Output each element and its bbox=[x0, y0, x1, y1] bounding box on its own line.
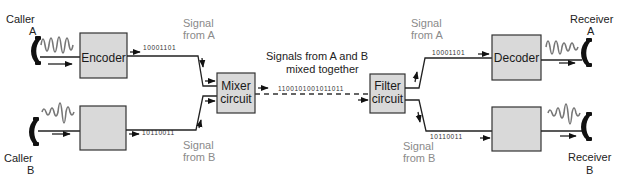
bits-a-in: 10001101 bbox=[143, 44, 176, 51]
arrow-down-icon bbox=[202, 58, 203, 67]
telephone-handset-icon bbox=[31, 36, 41, 65]
filter-label-line1: Filter bbox=[374, 79, 401, 93]
mixer-label-line2: circuit bbox=[220, 92, 252, 106]
caller-a-label-line2: A bbox=[29, 25, 37, 37]
arrow-down-icon bbox=[418, 112, 420, 122]
mixed-annotation-line1: Signals from A and B bbox=[266, 50, 368, 62]
bits-mixed: 1100101001011011 bbox=[278, 85, 344, 92]
arrow-up-icon bbox=[199, 120, 201, 128]
decoder-label: Decoder bbox=[494, 51, 539, 65]
encoder-b-box bbox=[80, 106, 126, 150]
bits-b-out: 10110011 bbox=[430, 133, 463, 140]
caller-b-label-line1: Caller bbox=[4, 152, 33, 164]
receiver-b: Receiver B bbox=[541, 104, 612, 176]
receiver-b-label-line1: Receiver bbox=[568, 151, 612, 163]
telephone-handset-icon bbox=[29, 117, 39, 146]
receiver-a-label-line2: A bbox=[587, 25, 595, 37]
sound-wave-icon bbox=[546, 41, 578, 54]
signal-a-right-line1: Signal bbox=[411, 17, 442, 29]
signal-a-left-line2: from A bbox=[183, 29, 215, 41]
caller-a: Caller A bbox=[6, 13, 80, 65]
caller-b-label-line2: B bbox=[27, 164, 34, 176]
arrow-up-icon bbox=[415, 72, 417, 82]
decoder-box: Decoder bbox=[492, 35, 541, 80]
telephone-handset-icon bbox=[581, 38, 592, 67]
receiver-a-label-line1: Receiver bbox=[570, 13, 614, 25]
filter-label-line2: circuit bbox=[372, 92, 404, 106]
filter-circuit-box: Filter circuit bbox=[370, 74, 405, 113]
receiver-b-label-line2: B bbox=[586, 164, 593, 176]
receiver-a: Receiver A bbox=[541, 13, 614, 67]
mixer-circuit-box: Mixer circuit bbox=[217, 73, 255, 113]
sound-wave-icon bbox=[41, 37, 73, 53]
multiplexing-diagram: Caller A Encoder 10001101 Signal from A … bbox=[0, 0, 627, 178]
decoder-b-box bbox=[492, 107, 541, 151]
signal-b-left-line1: Signal bbox=[183, 139, 214, 151]
sound-wave-icon bbox=[548, 104, 580, 124]
sound-wave-icon bbox=[42, 103, 74, 123]
caller-b: Caller B bbox=[4, 103, 80, 176]
signal-a-left-line1: Signal bbox=[183, 17, 214, 29]
mixer-label-line1: Mixer bbox=[221, 79, 250, 93]
signal-b-left-line2: from B bbox=[183, 151, 215, 163]
signal-b-right-line1: Signal bbox=[403, 140, 434, 152]
encoder-box: Encoder bbox=[80, 33, 127, 78]
signal-a-right-line2: from A bbox=[411, 29, 443, 41]
caller-a-label-line1: Caller bbox=[6, 13, 35, 25]
signal-b-right-line2: from B bbox=[403, 152, 435, 164]
bits-a-out: 10001101 bbox=[432, 49, 465, 56]
telephone-handset-icon bbox=[581, 112, 592, 141]
encoder-label: Encoder bbox=[81, 51, 126, 65]
mixed-annotation-line2: mixed together bbox=[286, 63, 359, 75]
